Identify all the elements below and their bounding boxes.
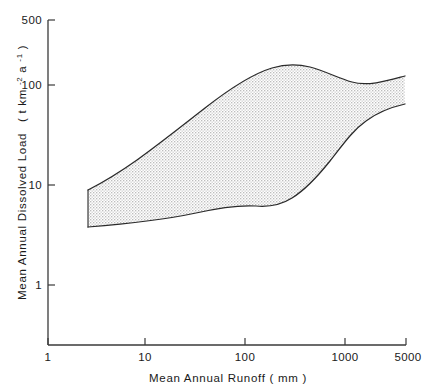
dissolved-load-runoff-chart: 500 100 10 1 1 10 100 1000 5000 Mean Ann… xyxy=(0,0,442,391)
x-tick-label-1000: 1000 xyxy=(331,351,358,363)
x-axis-title: Mean Annual Runoff ( mm ) xyxy=(149,372,307,384)
y-axis-title-units-mid: a xyxy=(16,66,28,73)
chart-figure: 500 100 10 1 1 10 100 1000 5000 Mean Ann… xyxy=(0,0,442,391)
y-axis-title-main: Mean Annual Dissolved Load xyxy=(16,133,28,300)
x-axis-tick-labels: 1 10 100 1000 5000 xyxy=(45,351,422,363)
y-axis-ticks xyxy=(48,20,55,285)
envelope-fill xyxy=(88,65,405,227)
y-axis-title-units-close: ) xyxy=(16,45,28,50)
y-axis-title-units-open: ( t km xyxy=(16,89,28,122)
x-tick-label-1: 1 xyxy=(45,351,52,363)
x-tick-label-10: 10 xyxy=(138,351,152,363)
y-tick-label-1: 1 xyxy=(35,279,42,291)
y-axis-title-exponent-area: -2 xyxy=(15,77,24,86)
y-tick-label-10: 10 xyxy=(28,179,42,191)
envelope-band xyxy=(88,65,405,227)
y-axis-title-exponent-time: -1 xyxy=(15,53,24,62)
y-tick-label-500: 500 xyxy=(22,14,42,26)
x-axis-ticks xyxy=(48,338,406,345)
x-tick-label-100: 100 xyxy=(235,351,255,363)
x-tick-label-5000: 5000 xyxy=(394,351,421,363)
